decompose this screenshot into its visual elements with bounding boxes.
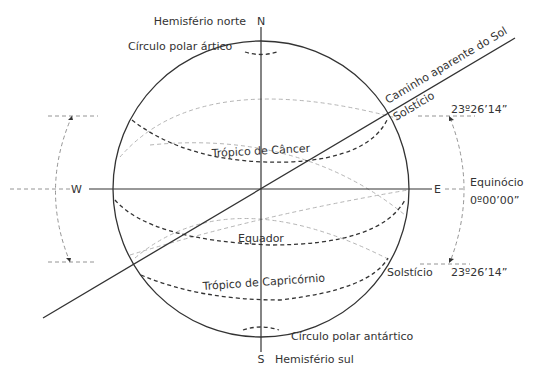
label-north-hemisphere: Hemisfério norte (154, 15, 247, 28)
label-angle-top: 23º26’14” (451, 103, 507, 116)
label-east: E (434, 183, 441, 196)
arrow-right-top (449, 116, 454, 121)
label-west: W (71, 183, 82, 196)
label-antarctic-circle: Círculo polar antártico (291, 330, 414, 343)
label-south: S (258, 353, 265, 366)
label-equator: Equador (238, 232, 284, 245)
label-ecliptic: Caminho aparente do Sol (383, 24, 510, 106)
label-angle-bottom: 23º26’14” (451, 266, 507, 279)
label-angle-equinox: 0º00’00” (470, 194, 519, 207)
label-equinox: Equinócio (470, 176, 524, 189)
arrow-right-bottom (449, 258, 454, 263)
celestial-sphere-diagram: Hemisfério norte N Círculo polar ártico … (0, 0, 537, 381)
label-solstice-bottom: Solstício (387, 266, 433, 279)
guide-right-arc (450, 118, 464, 262)
label-arctic-circle: Círculo polar ártico (128, 40, 233, 53)
label-tropic-capricorn: Trópico de Capricórnio (201, 271, 325, 293)
label-north: N (257, 15, 265, 28)
arrow-left-bottom (66, 258, 71, 262)
label-south-hemisphere: Hemisfério sul (275, 353, 354, 366)
arrow-left-top (68, 116, 73, 120)
